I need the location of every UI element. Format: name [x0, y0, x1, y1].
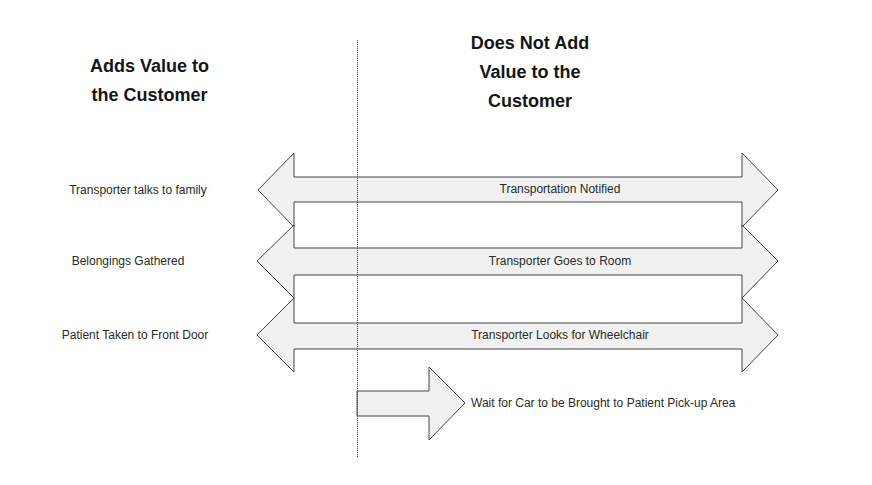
left-label-row-1: Transporter talks to family [38, 183, 238, 197]
bar-label-row-2: Transporter Goes to Room [440, 254, 680, 268]
right-arrow-final-step [357, 367, 465, 440]
value-stream-diagram [0, 0, 872, 485]
final-step-label: Wait for Car to be Brought to Patient Pi… [471, 396, 735, 410]
bar-label-row-3: Transporter Looks for Wheelchair [420, 328, 700, 342]
left-label-row-2: Belongings Gathered [38, 254, 218, 268]
left-label-row-3: Patient Taken to Front Door [30, 328, 240, 342]
bar-label-row-1: Transportation Notified [440, 182, 680, 196]
